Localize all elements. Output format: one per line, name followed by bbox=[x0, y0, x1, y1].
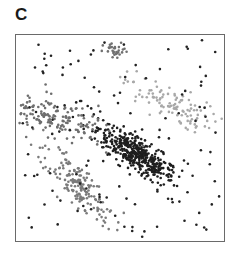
scatter-points bbox=[16, 35, 224, 241]
panel-label: C bbox=[15, 6, 27, 23]
scatter-plot-frame bbox=[15, 34, 225, 242]
cluster-right-light bbox=[119, 70, 223, 134]
cluster-left-lower bbox=[30, 128, 125, 232]
